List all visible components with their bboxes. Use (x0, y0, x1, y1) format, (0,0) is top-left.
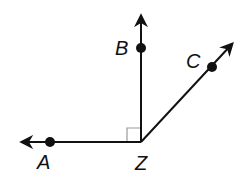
label-a: A (36, 151, 50, 173)
point-a (45, 137, 55, 147)
label-b: B (115, 37, 128, 59)
label-z: Z (134, 152, 148, 174)
point-b (136, 43, 146, 53)
point-c (207, 62, 217, 72)
angle-diagram: A B C Z (0, 0, 249, 178)
label-c: C (186, 50, 201, 72)
right-angle-marker (127, 128, 141, 142)
